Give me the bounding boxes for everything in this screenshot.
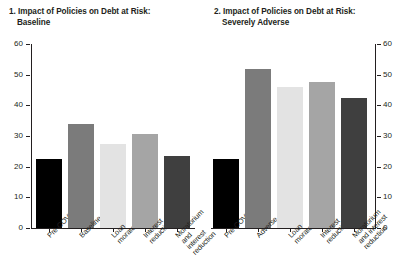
bar <box>36 159 62 228</box>
y-axis-tick <box>377 136 381 137</box>
chart-panel-severely-adverse: 2. Impact of Policies on Debt at Risk: S… <box>204 0 408 278</box>
y-axis-tick-label: 50 <box>383 71 392 79</box>
y-axis-tick-label: 40 <box>0 101 23 109</box>
y-axis-tick-label: 60 <box>0 40 23 48</box>
y-axis-tick-label: 60 <box>383 40 392 48</box>
y-axis-tick <box>377 197 381 198</box>
bar <box>309 82 335 228</box>
y-axis-tick-label: 10 <box>383 193 392 201</box>
y-axis-tick-label: 0 <box>0 224 23 232</box>
bar <box>132 134 158 228</box>
y-axis-tick-label: 40 <box>383 101 392 109</box>
bar <box>164 156 190 228</box>
y-axis-tick-label: 20 <box>0 163 23 171</box>
y-axis-tick <box>377 75 381 76</box>
y-axis-tick <box>26 44 30 45</box>
y-axis-tick-label: 30 <box>383 132 392 140</box>
bar <box>100 144 126 228</box>
y-axis-tick <box>26 197 30 198</box>
y-axis-line <box>375 44 376 229</box>
y-axis-tick-label: 50 <box>0 71 23 79</box>
bar <box>213 159 239 228</box>
chart-panel-baseline: 1. Impact of Policies on Debt at Risk: B… <box>0 0 204 278</box>
bar <box>245 69 271 228</box>
y-axis-tick <box>26 136 30 137</box>
panel-1-plot-area: 0102030405060Pre-COVIDBaselineLoan morat… <box>0 0 204 278</box>
y-axis-tick <box>377 44 381 45</box>
y-axis-tick <box>26 75 30 76</box>
y-axis-tick <box>26 167 30 168</box>
panel-2-plot-area: 0102030405060Pre-COVIDAdverseLoan morato… <box>204 0 408 278</box>
y-axis-tick-label: 10 <box>0 193 23 201</box>
y-axis-tick-label: 30 <box>0 132 23 140</box>
bar <box>277 87 303 228</box>
y-axis-tick <box>377 105 381 106</box>
y-axis-tick-label: 20 <box>383 163 392 171</box>
y-axis-line <box>31 44 32 229</box>
bar <box>341 98 367 228</box>
dual-bar-chart-figure: 1. Impact of Policies on Debt at Risk: B… <box>0 0 408 278</box>
y-axis-tick <box>377 167 381 168</box>
y-axis-tick <box>26 105 30 106</box>
y-axis-tick <box>26 228 30 229</box>
bar <box>68 124 94 228</box>
